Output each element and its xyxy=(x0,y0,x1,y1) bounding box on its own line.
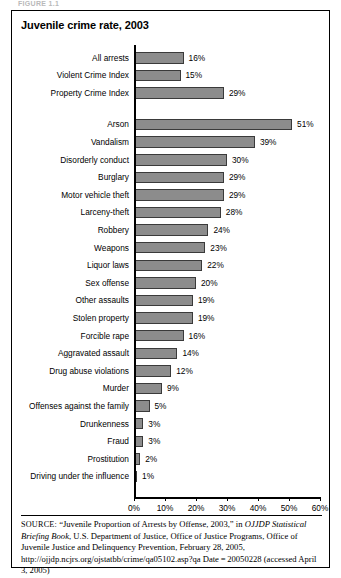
bar xyxy=(134,400,150,412)
bar-track: 19% xyxy=(134,292,331,310)
bar xyxy=(134,172,224,184)
y-axis-line xyxy=(134,45,136,497)
bar-row: Fraud3% xyxy=(12,432,331,450)
bar xyxy=(134,383,162,395)
bar-row: Sex offense20% xyxy=(12,274,331,292)
bar-track: 3% xyxy=(134,415,331,433)
bar-track: 15% xyxy=(134,67,331,85)
bar-category-label: Burglary xyxy=(12,173,134,181)
bar xyxy=(134,365,171,377)
source-note: SOURCE: “Juvenile Proportion of Arrests … xyxy=(21,519,324,577)
bar-row: Liquor laws22% xyxy=(12,257,331,275)
bar-track: 20% xyxy=(134,274,331,292)
bar-category-label: Property Crime Index xyxy=(12,89,134,97)
bar-row: Weapons23% xyxy=(12,239,331,257)
bar-row: All arrests16% xyxy=(12,49,331,67)
source-label: SOURCE: xyxy=(21,520,57,529)
bar-value-label: 15% xyxy=(186,71,203,79)
bar xyxy=(134,119,292,131)
bar-value-label: 28% xyxy=(226,208,243,216)
bar-track: 5% xyxy=(134,397,331,415)
x-axis-tick xyxy=(196,497,197,501)
figure-box: Juvenile crime rate, 2003 All arrests16%… xyxy=(11,10,330,568)
bar xyxy=(134,295,193,307)
source-divider xyxy=(21,515,322,516)
x-axis-tick-label: 30% xyxy=(219,503,236,513)
x-axis-tick-label: 20% xyxy=(188,503,205,513)
x-axis-tick xyxy=(227,497,228,501)
bar-value-label: 19% xyxy=(198,296,215,304)
x-axis-tick xyxy=(258,497,259,501)
x-axis-tick xyxy=(165,497,166,501)
chart-title: Juvenile crime rate, 2003 xyxy=(21,19,149,31)
bar-category-label: Arson xyxy=(12,120,134,128)
bar-track: 51% xyxy=(134,116,331,134)
bar-track: 3% xyxy=(134,432,331,450)
bar xyxy=(134,224,208,236)
bar-category-label: Offenses against the family xyxy=(12,402,134,410)
bar-category-label: Fraud xyxy=(12,437,134,445)
bar-track: 23% xyxy=(134,239,331,257)
bar xyxy=(134,207,221,219)
bar-row: Forcible rape16% xyxy=(12,327,331,345)
x-axis-tick-label: 10% xyxy=(157,503,174,513)
bar-value-label: 16% xyxy=(189,54,206,62)
bar-value-label: 3% xyxy=(148,420,160,428)
bar-value-label: 22% xyxy=(207,261,224,269)
bar-track: 24% xyxy=(134,221,331,239)
bar-category-label: Other assaults xyxy=(12,296,134,304)
bar xyxy=(134,242,205,254)
bar-track: 9% xyxy=(134,380,331,398)
bar-value-label: 5% xyxy=(155,402,167,410)
bar-value-label: 19% xyxy=(198,314,215,322)
bar-category-label: Forcible rape xyxy=(12,332,134,340)
bar xyxy=(134,277,196,289)
bar-row: Murder9% xyxy=(12,380,331,398)
bar-category-label: Robbery xyxy=(12,226,134,234)
x-axis-tick xyxy=(134,497,135,501)
bar-track: 29% xyxy=(134,84,331,102)
bar-category-label: Weapons xyxy=(12,244,134,252)
bar-row: Offenses against the family5% xyxy=(12,397,331,415)
bar-category-label: Liquor laws xyxy=(12,261,134,269)
bar xyxy=(134,70,181,82)
bar-row: Stolen property19% xyxy=(12,309,331,327)
bar-category-label: Drug abuse violations xyxy=(12,367,134,375)
bar xyxy=(134,312,193,324)
bar-category-label: Drunkenness xyxy=(12,420,134,428)
bar-row: Violent Crime Index15% xyxy=(12,67,331,85)
bar-track: 28% xyxy=(134,204,331,222)
bar-category-label: Vandalism xyxy=(12,138,134,146)
bar-category-label: Driving under the influence xyxy=(12,472,134,480)
bar-track: 22% xyxy=(134,257,331,275)
bar-track: 29% xyxy=(134,186,331,204)
bar-track: 1% xyxy=(134,468,331,486)
source-text-1: “Juvenile Proportion of Arrests by Offen… xyxy=(57,519,245,529)
bar-category-label: Disorderly conduct xyxy=(12,156,134,164)
bar-row: Property Crime Index29% xyxy=(12,84,331,102)
bar-value-label: 24% xyxy=(213,226,230,234)
bar-row: Drunkenness3% xyxy=(12,415,331,433)
bar-value-label: 20% xyxy=(201,279,218,287)
bar-row: Other assaults19% xyxy=(12,292,331,310)
bar-category-label: Motor vehicle theft xyxy=(12,191,134,199)
bar xyxy=(134,52,184,64)
x-axis-tick-label: 50% xyxy=(281,503,298,513)
bar-category-label: Larceny-theft xyxy=(12,208,134,216)
bar-track: 39% xyxy=(134,133,331,151)
bar-value-label: 23% xyxy=(210,244,227,252)
bar-row: Disorderly conduct30% xyxy=(12,151,331,169)
bar-value-label: 39% xyxy=(260,138,277,146)
bar-chart-plot-area: All arrests16%Violent Crime Index15%Prop… xyxy=(12,49,331,501)
bar-value-label: 30% xyxy=(232,156,249,164)
bar xyxy=(134,87,224,99)
bar-category-label: All arrests xyxy=(12,54,134,62)
bar-row: Vandalism39% xyxy=(12,133,331,151)
bar-row: Robbery24% xyxy=(12,221,331,239)
bar-track: 29% xyxy=(134,169,331,187)
bar-value-label: 29% xyxy=(229,191,246,199)
bar-value-label: 1% xyxy=(142,472,154,480)
bar-row: Prostitution2% xyxy=(12,450,331,468)
bar-value-label: 29% xyxy=(229,89,246,97)
bar-value-label: 16% xyxy=(189,332,206,340)
